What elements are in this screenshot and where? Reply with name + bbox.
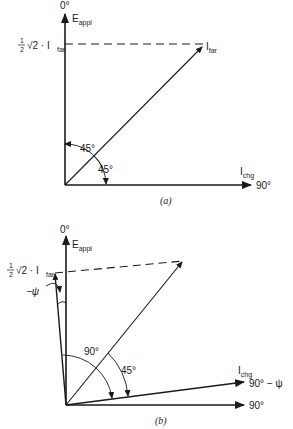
diagram-b: 0° Eappl 1 2 √2 · I far −ψ 90° 45° Ichg … [7, 224, 283, 427]
projection-dashed-line-b [55, 261, 183, 273]
i-chg-label-b: Ichg [238, 365, 252, 379]
psi-small-arc-b [58, 302, 66, 304]
angle-90-label-b: 90° [84, 346, 99, 357]
angle-lower-label-a: 45° [98, 164, 113, 175]
i-far-label-a: Ifar [206, 41, 218, 54]
svg-text:far: far [57, 46, 66, 53]
svg-text:far: far [46, 271, 55, 278]
projection-label-a: 1 2 √2 · I far [18, 37, 66, 53]
caption-b: (b) [155, 415, 167, 427]
svg-text:1: 1 [9, 262, 13, 269]
caption-a: (a) [160, 195, 172, 207]
horizontal-angle-label-b: 90° [249, 400, 264, 411]
i-chg-label-a: Ichg [240, 166, 254, 180]
top-angle-label-b: 0° [60, 224, 70, 235]
svg-text:√2 · I: √2 · I [16, 265, 39, 276]
top-angle-label-a: 0° [60, 0, 70, 11]
angle-90-arc-b [63, 355, 112, 398]
tilted-far-projection-vector-b [55, 274, 66, 405]
svg-text:2: 2 [9, 271, 13, 278]
svg-text:1: 1 [20, 37, 24, 44]
psi-label-b: −ψ [26, 286, 40, 297]
tilted-horizontal-angle-label-b: 90° − ψ [249, 378, 283, 389]
svg-text:√2 · I: √2 · I [27, 40, 50, 51]
e-appl-label-b: Eappl [72, 239, 92, 253]
horizontal-angle-label-a: 90° [256, 180, 271, 191]
i-far-vector-a [65, 47, 202, 185]
phasor-diagrams: 0° Eappl 1 2 √2 · I far Ifar Ichg 90° 45… [0, 0, 293, 429]
psi-angle-arc-b [46, 283, 60, 292]
i-chg-vector-b [66, 382, 244, 405]
i-far-vector-b [66, 262, 182, 405]
diagram-a: 0° Eappl 1 2 √2 · I far Ifar Ichg 90° 45… [18, 0, 271, 207]
svg-text:2: 2 [20, 46, 24, 53]
angle-45-label-b: 45° [121, 365, 136, 376]
e-appl-label-a: Eappl [72, 13, 92, 27]
projection-label-b: 1 2 √2 · I far [7, 262, 55, 278]
angle-upper-label-a: 45° [80, 143, 95, 154]
